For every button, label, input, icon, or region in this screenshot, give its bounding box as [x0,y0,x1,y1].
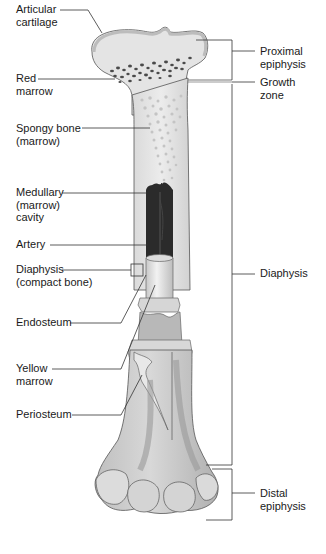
label-red-marrow: Red marrow [16,72,53,97]
label-distal-epiphysis: Distal epiphysis [260,487,306,512]
label-periosteum: Periosteum [16,408,72,421]
label-growth-zone: Growth zone [260,76,295,101]
label-proximal-epiphysis: Proximal epiphysis [260,45,306,70]
diaphysis-shape [132,78,190,303]
label-endosteum: Endosteum [16,316,72,329]
right-brackets [196,40,255,520]
bone-diagram: Articular cartilage Red marrow Spongy bo… [0,0,326,554]
label-artery: Artery [16,238,45,251]
label-yellow-marrow: Yellow marrow [16,362,53,387]
label-medullary-cavity: Medullary (marrow) cavity [16,186,64,224]
label-spongy-bone: Spongy bone (marrow) [16,122,81,147]
lower-shaft-shape [95,298,218,514]
label-diaphysis: Diaphysis [260,267,308,280]
growth-zone-lines [186,80,232,82]
label-articular-cartilage: Articular cartilage [16,3,58,28]
label-diaphysis-compact-bone: Diaphysis (compact bone) [16,263,92,288]
